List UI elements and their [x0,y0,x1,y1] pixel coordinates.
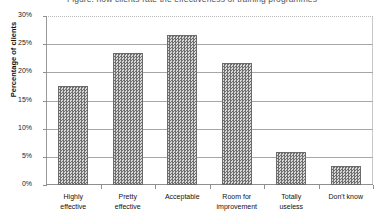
x-tick-label: Prettyeffective [101,192,156,211]
x-tick-mark [373,185,374,189]
bar [113,53,143,185]
bar [58,86,88,185]
y-tick-label: 5% [0,152,32,159]
x-tick-mark [264,185,265,189]
x-tick-label: Acceptable [155,192,210,202]
y-tick-label: 20% [0,67,32,74]
x-tick-label: Highlyeffective [46,192,101,211]
x-tick-label-line: effective [101,202,156,212]
x-tick-label-line: Totally [264,192,319,202]
x-tick-label-line: Room for [210,192,265,202]
y-tick-label: 10% [0,124,32,131]
x-tick-label-line: Highly [46,192,101,202]
x-tick-mark [155,185,156,189]
x-tick-label-line: Pretty [101,192,156,202]
bar [331,166,361,185]
x-tick-label-line: Acceptable [155,192,210,202]
x-tick-label-line: Don't know [319,192,374,202]
y-tick-label: 25% [0,39,32,46]
plot-area: 30%25%20%15%10%5%0% [46,16,373,185]
y-axis-title: Percentage of clients [9,0,18,125]
y-tick-label: 30% [0,11,32,18]
chart-title: Figure: how clients rate the effectivene… [0,0,384,5]
x-tick-label-line: effective [46,202,101,212]
x-tick-label: Totallyuseless [264,192,319,211]
bar [222,63,252,185]
x-tick-label-line: improvement [210,202,265,212]
y-tick-label: 15% [0,96,32,103]
x-tick-label: Room forimprovement [210,192,265,211]
x-axis-ticks [46,185,373,189]
x-tick-mark [101,185,102,189]
x-axis-labels: HighlyeffectivePrettyeffectiveAcceptable… [46,192,373,222]
x-tick-mark [319,185,320,189]
y-tick-label: 0% [0,180,32,187]
x-tick-label: Don't know [319,192,374,202]
bar [276,152,306,185]
bar [167,35,197,185]
bar-series [46,16,373,185]
x-tick-mark [210,185,211,189]
x-tick-label-line: useless [264,202,319,212]
